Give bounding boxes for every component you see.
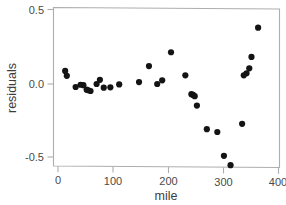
y-axis-tick-labels: 0.5 0.0 -0.5	[25, 4, 44, 164]
y-axis-title: residuals	[5, 63, 19, 113]
data-point	[116, 81, 122, 87]
data-point	[192, 93, 198, 99]
data-point	[255, 25, 261, 31]
x-tick-label-400: 400	[269, 176, 286, 188]
data-point	[194, 103, 200, 109]
plot-canvas: 0.5 0.0 -0.5 0 100 200 300 400 mile resi…	[0, 0, 286, 205]
data-point	[107, 84, 113, 90]
y-axis-ticks	[48, 10, 54, 158]
data-point	[214, 129, 220, 135]
data-point	[248, 54, 254, 60]
data-point	[146, 63, 152, 69]
data-point	[87, 88, 93, 94]
data-point	[246, 65, 252, 71]
scatter-plot-figure: 0.5 0.0 -0.5 0 100 200 300 400 mile resi…	[0, 0, 286, 205]
data-point	[154, 81, 160, 87]
x-tick-label-100: 100	[104, 175, 122, 187]
data-point	[239, 121, 245, 127]
data-point	[97, 77, 103, 83]
data-point	[227, 162, 233, 168]
x-axis-tick-labels: 0 100 200 300 400	[55, 174, 286, 188]
data-point	[159, 77, 165, 83]
data-points-group	[62, 25, 261, 169]
x-tick-label-0: 0	[55, 174, 61, 186]
y-tick-label-bottom: -0.5	[25, 151, 44, 163]
data-point	[168, 49, 174, 55]
y-tick-label-top: 0.5	[29, 4, 44, 16]
x-tick-label-200: 200	[159, 175, 177, 187]
data-point	[182, 72, 188, 78]
data-point	[204, 126, 210, 132]
x-tick-label-300: 300	[214, 176, 232, 188]
data-point	[136, 79, 142, 85]
x-axis-title: mile	[155, 189, 178, 203]
data-point	[64, 73, 70, 79]
data-point	[221, 153, 227, 159]
y-tick-label-mid: 0.0	[29, 78, 44, 90]
data-point	[101, 85, 107, 91]
